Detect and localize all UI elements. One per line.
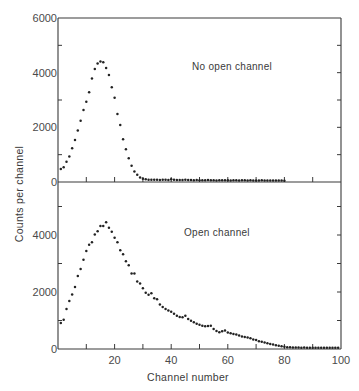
data-point (323, 347, 326, 350)
data-point (232, 333, 235, 336)
data-point (170, 178, 173, 181)
data-point (79, 268, 82, 271)
data-point (181, 316, 184, 319)
data-point (232, 179, 235, 182)
y-axis-title: Counts per channel (13, 146, 25, 242)
data-point (74, 286, 77, 289)
data-point (62, 319, 65, 322)
data-point (328, 347, 331, 350)
data-point (144, 291, 147, 294)
data-point (195, 323, 198, 326)
data-point (289, 346, 292, 349)
data-point (178, 179, 181, 182)
data-point (71, 293, 74, 296)
data-point (122, 253, 125, 256)
data-point (85, 100, 88, 103)
data-point (277, 179, 280, 182)
data-point (136, 280, 139, 283)
data-point (280, 179, 283, 182)
data-point (150, 178, 153, 181)
data-point (74, 139, 77, 142)
data-point (99, 60, 102, 63)
data-point (144, 178, 147, 181)
data-point (164, 179, 167, 182)
data-point (241, 179, 244, 182)
data-point (201, 179, 204, 182)
data-point (91, 77, 94, 80)
data-point (111, 86, 114, 89)
data-point (96, 230, 99, 233)
data-point (314, 347, 317, 350)
data-point (261, 340, 264, 343)
data-point (125, 148, 128, 151)
data-point (263, 179, 266, 182)
data-point (150, 292, 153, 295)
data-point (139, 282, 142, 285)
data-point (334, 347, 337, 350)
data-point (119, 124, 122, 127)
data-point (108, 226, 111, 229)
data-point (102, 61, 105, 64)
data-point (147, 178, 150, 181)
y-tick-label: 0 (51, 343, 57, 355)
data-point (153, 179, 156, 182)
data-point (187, 179, 190, 182)
data-point (105, 67, 108, 70)
data-point (309, 346, 312, 349)
data-point (255, 339, 258, 342)
data-point (269, 343, 272, 346)
data-point (71, 147, 74, 150)
data-point (82, 258, 85, 261)
data-point (303, 346, 306, 349)
data-point (221, 179, 224, 182)
data-point (190, 179, 193, 182)
data-point (167, 309, 170, 312)
data-point (128, 264, 131, 267)
figure: 020004000600002000400020406080100 No ope… (0, 0, 359, 391)
data-point (176, 179, 179, 182)
data-point (184, 315, 187, 318)
data-point (212, 328, 215, 331)
data-point (102, 225, 105, 228)
data-point (286, 346, 289, 349)
data-point (113, 96, 116, 99)
data-point (258, 340, 261, 343)
data-point (272, 179, 275, 182)
data-point (173, 313, 176, 316)
data-point (331, 347, 334, 350)
data-point (128, 157, 131, 160)
data-point (246, 336, 249, 339)
data-point (190, 319, 193, 322)
data-point (108, 74, 111, 77)
x-tick-label: 20 (108, 354, 120, 366)
data-point (283, 179, 286, 182)
data-point (105, 221, 108, 224)
x-tick-label: 100 (332, 354, 350, 366)
data-point (193, 321, 196, 324)
data-point (85, 250, 88, 253)
data-point (320, 347, 323, 350)
data-point (139, 176, 142, 179)
data-point (258, 179, 261, 182)
data-point (94, 233, 97, 236)
data-point (337, 347, 340, 350)
data-point (238, 334, 241, 337)
data-point (159, 179, 162, 182)
data-point (198, 179, 201, 182)
data-point (77, 275, 80, 278)
data-point (255, 179, 258, 182)
data-point (111, 230, 114, 233)
data-point (252, 338, 255, 341)
data-point (269, 179, 272, 182)
data-point (142, 287, 145, 290)
data-point (229, 332, 232, 335)
data-point (125, 260, 128, 263)
data-point (113, 236, 116, 239)
data-point (238, 179, 241, 182)
upper-panel-annotation: No open channel (192, 61, 272, 72)
data-point (65, 161, 68, 164)
data-point (94, 68, 97, 71)
lower-panel-points (60, 221, 340, 349)
data-point (277, 344, 280, 347)
data-point (60, 168, 63, 171)
